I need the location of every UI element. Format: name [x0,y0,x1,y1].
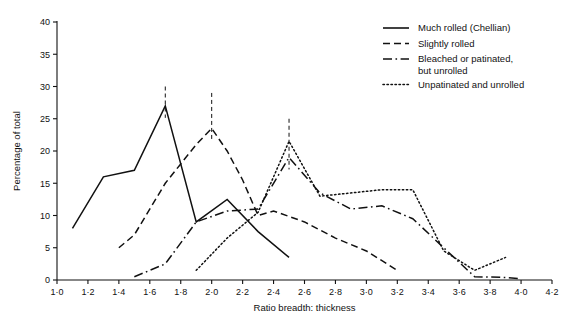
x-axis-tick-label: 3·8 [484,287,497,297]
series-line-1 [119,128,397,270]
y-axis-title: Percentage of total [11,111,22,191]
x-axis-tick-label: 3·4 [422,287,435,297]
y-axis-tick-label: 15 [40,179,50,189]
legend-label-2-line2: but unrolled [418,65,468,76]
legend-label-3: Unpatinated and unrolled [418,79,524,90]
y-axis-tick-label: 5 [45,243,50,253]
y-axis-tick-label: 40 [40,17,50,27]
legend-label-2: Bleached or patinated, [418,53,513,64]
x-axis-tick-label: 3·0 [360,287,373,297]
x-axis-tick-label: 2·2 [236,287,249,297]
x-axis-tick-label: 1·4 [112,287,125,297]
y-axis-tick-label: 0 [45,275,50,285]
series-line-0 [72,106,289,258]
line-chart-canvas: 05101520253035401·01·21·41·61·82·02·22·4… [0,0,576,325]
y-axis-tick-label: 20 [40,146,50,156]
y-axis-tick-label: 10 [40,211,50,221]
series-line-3 [196,141,505,270]
x-axis-title: Ratio breadth: thickness [254,302,356,313]
x-axis-tick-label: 4·0 [515,287,528,297]
x-axis-tick-label: 3·6 [453,287,466,297]
y-axis-tick-label: 35 [40,50,50,60]
chart-figure: 05101520253035401·01·21·41·61·82·02·22·4… [0,0,576,325]
x-axis-tick-label: 1·2 [81,287,94,297]
y-axis-tick-label: 25 [40,114,50,124]
x-axis-tick-label: 1·6 [143,287,156,297]
x-axis-tick-label: 1·8 [174,287,187,297]
legend-label-0: Much rolled (Chellian) [418,22,510,33]
x-axis-tick-label: 2·6 [298,287,311,297]
y-axis-tick-label: 30 [40,82,50,92]
x-axis-tick-label: 1·0 [50,287,63,297]
x-axis-tick-label: 2·4 [267,287,280,297]
x-axis-tick-label: 2·8 [329,287,342,297]
x-axis-tick-label: 3·2 [391,287,404,297]
legend-label-1: Slightly rolled [418,38,475,49]
x-axis-tick-label: 2·0 [205,287,218,297]
series-line-2 [134,157,521,278]
x-axis-tick-label: 4·2 [545,287,558,297]
